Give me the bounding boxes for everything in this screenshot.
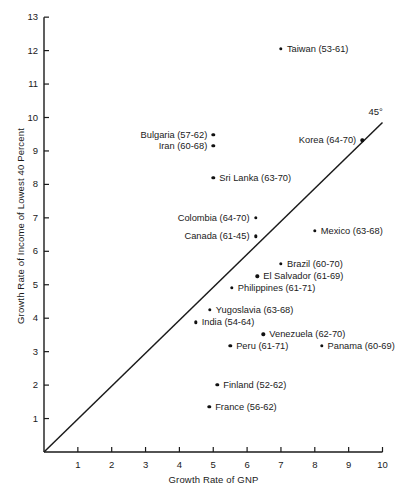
data-point	[360, 139, 363, 142]
x-tick-label: 6	[237, 460, 257, 470]
data-point-label: Canada (61-45)	[184, 231, 249, 241]
data-point-label: El Salvador (61-69)	[263, 271, 343, 281]
plot-overlay: 12345678910111213 12345678910 Taiwan (53…	[0, 0, 409, 493]
data-point	[254, 216, 257, 219]
data-point-label: Yugoslavia (63-68)	[216, 305, 294, 315]
data-point-label: Bulgaria (57-62)	[141, 130, 208, 140]
data-point	[279, 262, 282, 265]
data-point	[230, 286, 233, 289]
forty-five-degree-label: 45°	[369, 106, 383, 117]
x-tick-label: 7	[271, 460, 291, 470]
data-point	[262, 333, 265, 336]
data-point	[313, 229, 316, 232]
data-point-label: Peru (61-71)	[236, 341, 288, 351]
data-point-label: Iran (60-68)	[159, 141, 208, 151]
data-point	[212, 133, 215, 136]
x-tick-label: 10	[373, 460, 393, 470]
y-axis-title: Growth Rate of Income of Lowest 40 Perce…	[14, 0, 28, 452]
data-point-label: France (56-62)	[215, 402, 277, 412]
data-point	[194, 321, 197, 324]
x-tick-label: 1	[68, 460, 88, 470]
data-point	[254, 235, 257, 238]
x-tick-label: 3	[136, 460, 156, 470]
data-point	[228, 344, 231, 347]
data-point-label: Mexico (63-68)	[321, 226, 383, 236]
scatter-plot-figure: 12345678910111213 12345678910 Taiwan (53…	[0, 0, 409, 493]
x-tick-label: 8	[305, 460, 325, 470]
x-tick-label: 5	[203, 460, 223, 470]
x-tick-label: 2	[102, 460, 122, 470]
data-point-label: Brazil (60-70)	[287, 259, 343, 269]
data-point-label: Panama (60-69)	[328, 341, 395, 351]
data-point	[212, 176, 215, 179]
data-point-label: Philippines (61-71)	[238, 283, 316, 293]
data-point-label: Finland (52-62)	[223, 380, 286, 390]
data-point	[212, 144, 215, 147]
data-point	[279, 47, 282, 50]
data-point-label: Colombia (64-70)	[178, 213, 250, 223]
data-point	[320, 344, 323, 347]
x-axis-title: Growth Rate of GNP	[44, 474, 383, 485]
data-point-label: Korea (64-70)	[299, 135, 356, 145]
data-point-label: Sri Lanka (63-70)	[219, 173, 291, 183]
x-tick-label: 9	[339, 460, 359, 470]
data-point	[256, 275, 259, 278]
data-point-label: Venezuela (62-70)	[269, 329, 345, 339]
data-point-label: Taiwan (53-61)	[287, 44, 349, 54]
data-point	[207, 405, 210, 408]
data-point	[216, 383, 219, 386]
data-point-label: India (54-64)	[202, 317, 255, 327]
data-point	[208, 308, 211, 311]
x-tick-label: 4	[169, 460, 189, 470]
